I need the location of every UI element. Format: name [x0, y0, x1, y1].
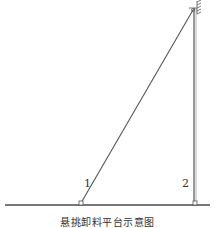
anchor-point-1 — [79, 201, 83, 205]
cable-label-1: 1 — [84, 178, 91, 189]
platform-schematic — [0, 0, 215, 228]
wall-anchor-icon — [189, 0, 201, 14]
cable-label-2: 2 — [182, 178, 189, 189]
anchor-point-2 — [193, 201, 197, 205]
diagram-caption: 悬挑卸料平台示意图 — [0, 214, 215, 228]
diagonal-cable-1 — [81, 10, 193, 203]
